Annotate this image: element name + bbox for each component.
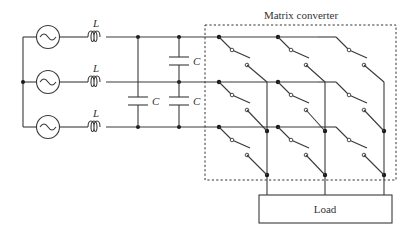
inductor-label: L <box>92 62 99 74</box>
switch-icon <box>278 37 325 82</box>
switch-icon <box>219 82 267 131</box>
inductor-icon <box>88 76 100 87</box>
switch-icon <box>318 127 384 175</box>
switch-matrix <box>217 35 386 195</box>
matrix-converter-diagram: L L L C C C Matrix converter <box>0 0 415 233</box>
switch-icon <box>318 37 384 82</box>
switch-icon <box>219 127 267 175</box>
capacitor-label: C <box>193 95 201 107</box>
matrix-converter-title: Matrix converter <box>264 9 339 21</box>
inductor-label: L <box>92 107 99 119</box>
source-common-bus <box>21 37 37 127</box>
inductor-icon <box>88 121 100 132</box>
switch-icon <box>219 37 267 82</box>
switch-icon <box>318 82 384 131</box>
inductor-icon <box>88 31 100 42</box>
capacitor-label: C <box>152 95 160 107</box>
ac-source-icon <box>37 116 60 139</box>
switch-icon <box>278 127 325 175</box>
capacitor-label: C <box>193 55 201 67</box>
ac-source-icon <box>37 26 60 49</box>
ac-source-icon <box>37 71 60 94</box>
load-label: Load <box>314 203 337 215</box>
switch-icon <box>278 82 325 131</box>
inductor-label: L <box>92 17 99 29</box>
matrix-converter-boundary <box>205 25 396 180</box>
